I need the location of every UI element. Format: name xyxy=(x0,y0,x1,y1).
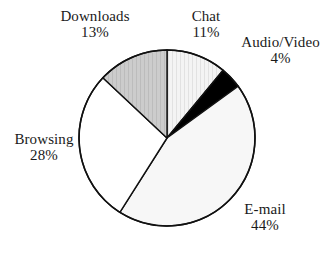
pie-label-audio-video-percent: 4% xyxy=(230,50,331,66)
pie-label-audio-video: Audio/Video 4% xyxy=(230,34,331,66)
pie-label-chat-name: Chat xyxy=(176,8,236,24)
pie-label-browsing-name: Browsing xyxy=(2,131,86,147)
pie-label-email-name: E-mail xyxy=(219,201,311,217)
pie-chart-figure: Downloads 13% Chat 11% Audio/Video 4% Br… xyxy=(0,0,333,253)
pie-label-browsing: Browsing 28% xyxy=(2,131,86,163)
pie-label-downloads: Downloads 13% xyxy=(40,8,150,40)
pie-label-chat-percent: 11% xyxy=(176,24,236,40)
pie-label-chat: Chat 11% xyxy=(176,8,236,40)
pie-label-downloads-name: Downloads xyxy=(40,8,150,24)
pie-slice-group xyxy=(79,50,255,226)
pie-label-audio-video-name: Audio/Video xyxy=(230,34,331,50)
pie-label-browsing-percent: 28% xyxy=(2,147,86,163)
pie-label-email: E-mail 44% xyxy=(219,201,311,233)
pie-label-email-percent: 44% xyxy=(219,217,311,233)
pie-label-downloads-percent: 13% xyxy=(40,24,150,40)
